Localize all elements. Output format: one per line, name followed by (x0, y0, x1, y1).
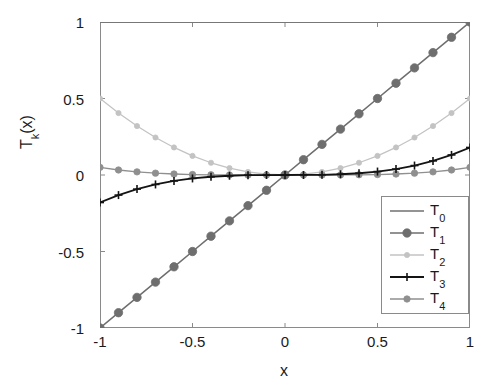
y-tick-label: -0.5 (24, 244, 92, 259)
legend-item-T_3[interactable]: T3 (382, 266, 468, 288)
chart-legend[interactable]: T0T1T2T3T4 (381, 196, 469, 314)
legend-line-sample-icon (387, 226, 427, 240)
legend-line-sample-icon (387, 248, 427, 262)
legend-item-T_0[interactable]: T0 (382, 200, 468, 222)
legend-label-subscript: 3 (439, 278, 445, 290)
legend-label-base: T (430, 245, 439, 262)
legend-item-T_1[interactable]: T1 (382, 222, 468, 244)
y-tick-label: -1 (24, 321, 92, 336)
x-tick-label: -0.5 (180, 334, 206, 349)
y-tick-label: 1 (24, 15, 92, 30)
x-tick-label: -1 (93, 334, 106, 349)
legend-label-subscript: 1 (439, 234, 445, 246)
x-axis-title: x (0, 362, 498, 380)
legend-label-subscript: 0 (439, 212, 445, 224)
legend-label: T3 (430, 268, 445, 287)
legend-line-sample-icon (387, 270, 427, 284)
legend-label: T4 (430, 290, 445, 309)
legend-label-subscript: 2 (439, 256, 445, 268)
y-axis-title: Tk(x) (18, 62, 38, 202)
legend-label: T2 (430, 246, 445, 265)
legend-item-T_4[interactable]: T4 (382, 288, 468, 310)
legend-label-subscript: 4 (439, 300, 445, 312)
x-tick-label: 0 (281, 334, 289, 349)
legend-label-base: T (430, 201, 439, 218)
legend-line-sample-icon (387, 292, 427, 306)
y-axis-title-subscript: k (29, 134, 41, 140)
x-tick-label: 0.5 (367, 334, 388, 349)
y-axis-title-arg: (x) (18, 115, 35, 134)
x-tick-label: 1 (466, 334, 474, 349)
y-axis-title-base: T (18, 139, 35, 149)
x-axis-title-text: x (280, 362, 288, 379)
legend-label: T0 (430, 202, 445, 221)
legend-item-T_2[interactable]: T2 (382, 244, 468, 266)
legend-label: T1 (430, 224, 445, 243)
legend-label-base: T (430, 267, 439, 284)
legend-label-base: T (430, 289, 439, 306)
legend-label-base: T (430, 223, 439, 240)
chart-figure: 1 0.5 0 -0.5 -1 -1 -0.5 0 0.5 1 x Tk(x) … (0, 0, 498, 392)
legend-line-sample-icon (387, 204, 427, 218)
